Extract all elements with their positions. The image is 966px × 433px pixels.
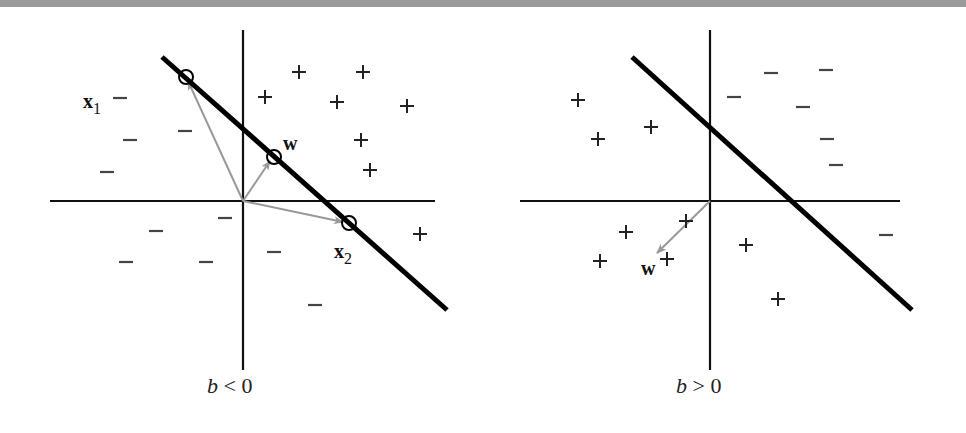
plus-marker [354,133,368,147]
decision-boundary-line [632,57,912,310]
caption-var: b [207,373,218,398]
caption-var: b [676,373,687,398]
plus-marker [591,132,605,146]
plus-marker [363,163,377,177]
plus-marker [771,292,785,306]
plus-marker [413,227,427,241]
label-x2: x2 [334,240,352,267]
plus-marker [400,99,414,113]
diagram-canvas: x1wx2 w [0,0,966,433]
plus-marker [571,93,585,107]
plus-marker [258,90,272,104]
vector-w-arrow [243,161,270,201]
vector-x1-arrow [188,81,243,201]
plus-marker [356,65,370,79]
panel-b-positive: w [520,30,912,370]
plus-marker [593,254,607,268]
label-x1: x1 [83,90,101,117]
caption-b-greater-than-zero: b > 0 [676,373,721,399]
label-w: w [641,257,656,279]
decision-boundary-line [162,57,447,310]
label-w: w [283,132,298,154]
vector-w-arrow [657,201,710,253]
plus-marker [660,252,674,266]
plus-marker [679,214,693,228]
caption-b-less-than-zero: b < 0 [207,373,252,399]
plus-marker [619,225,633,239]
caption-val: 0 [710,373,721,398]
plus-marker [644,120,658,134]
plus-marker [330,95,344,109]
plus-marker [292,65,306,79]
caption-op: < [224,373,236,398]
caption-op: > [693,373,705,398]
panel-b-negative: x1wx2 [50,30,447,370]
plus-marker [739,238,753,252]
caption-val: 0 [241,373,252,398]
